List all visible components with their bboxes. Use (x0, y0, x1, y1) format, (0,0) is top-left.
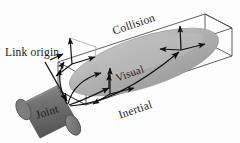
figure-canvas: Link origin Collision Visual Inertial Jo… (0, 0, 240, 143)
label-link-origin: Link origin (5, 47, 59, 59)
visual-mesh-ellipse (62, 14, 226, 110)
